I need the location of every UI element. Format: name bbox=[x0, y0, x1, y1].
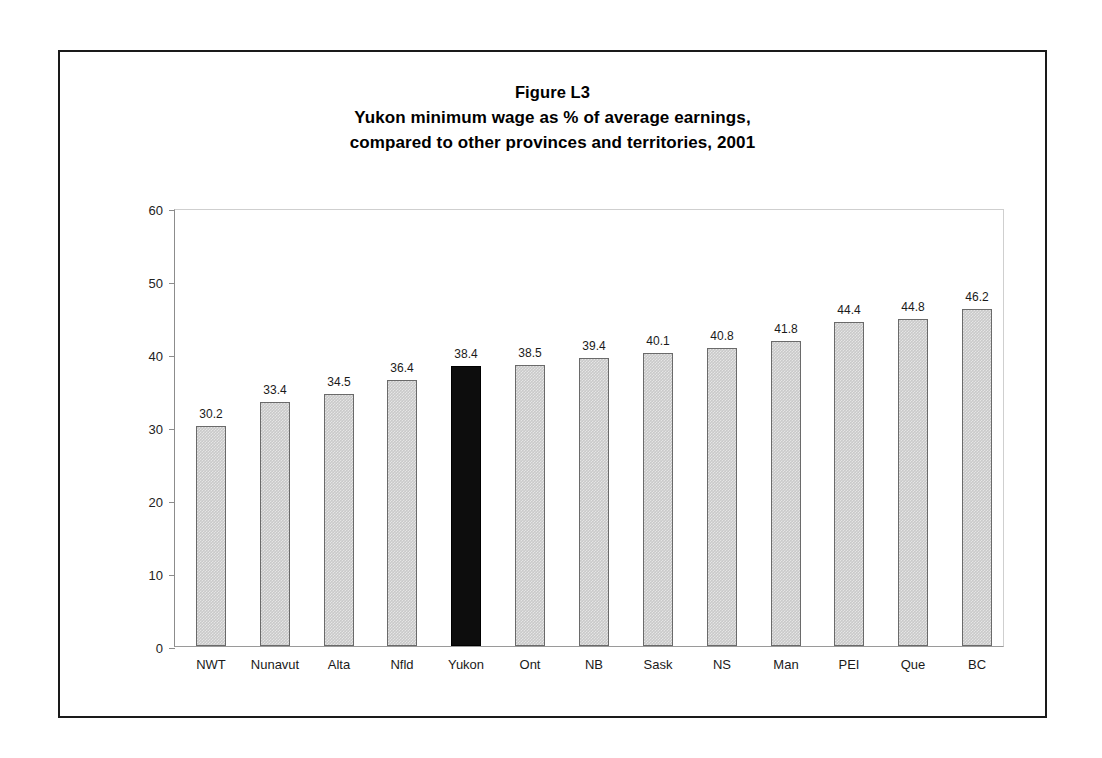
x-axis-category-label: Man bbox=[773, 658, 798, 671]
bar-sask[interactable] bbox=[643, 353, 673, 646]
x-axis-category-label: Alta bbox=[328, 658, 350, 671]
bar-value-label: 46.2 bbox=[965, 291, 988, 303]
bar-yukon[interactable] bbox=[451, 366, 481, 646]
bar-nb[interactable] bbox=[579, 358, 609, 646]
y-axis-tick-label: 10 bbox=[149, 569, 169, 582]
bar-group: 39.4NB bbox=[579, 208, 609, 646]
bar-value-label: 34.5 bbox=[327, 376, 350, 388]
chart-title-line-3: compared to other provinces and territor… bbox=[60, 130, 1045, 155]
y-axis-tick-label: 60 bbox=[149, 204, 169, 217]
x-axis-category-label: Sask bbox=[644, 658, 673, 671]
bar-man[interactable] bbox=[771, 341, 801, 646]
bar-group: 30.2NWT bbox=[196, 208, 226, 646]
bar-group: 38.4Yukon bbox=[451, 208, 481, 646]
bar-group: 44.8Que bbox=[898, 208, 928, 646]
bar-value-label: 40.1 bbox=[646, 335, 669, 347]
chart-title-line-1: Figure L3 bbox=[60, 80, 1045, 105]
bar-ns[interactable] bbox=[707, 348, 737, 646]
bar-group: 34.5Alta bbox=[324, 208, 354, 646]
bar-value-label: 30.2 bbox=[199, 408, 222, 420]
bar-alta[interactable] bbox=[324, 394, 354, 646]
x-axis-category-label: Que bbox=[901, 658, 926, 671]
y-axis-tick-label: 0 bbox=[156, 642, 169, 655]
y-axis-tick-label: 20 bbox=[149, 496, 169, 509]
bar-nfld[interactable] bbox=[387, 380, 417, 646]
bar-value-label: 36.4 bbox=[390, 362, 413, 374]
x-axis-category-label: NB bbox=[585, 658, 603, 671]
x-axis-category-label: Ont bbox=[520, 658, 541, 671]
bar-value-label: 38.4 bbox=[454, 348, 477, 360]
x-axis-category-label: PEI bbox=[839, 658, 860, 671]
y-axis-tick-label: 30 bbox=[149, 423, 169, 436]
bar-group: 33.4Nunavut bbox=[260, 208, 290, 646]
bar-value-label: 44.8 bbox=[901, 301, 924, 313]
bar-value-label: 39.4 bbox=[582, 340, 605, 352]
chart-title: Figure L3 Yukon minimum wage as % of ave… bbox=[60, 80, 1045, 155]
bar-value-label: 41.8 bbox=[774, 323, 797, 335]
bar-pei[interactable] bbox=[834, 322, 864, 646]
x-axis-category-label: Yukon bbox=[448, 658, 484, 671]
x-axis-category-label: Nfld bbox=[390, 658, 413, 671]
bar-value-label: 44.4 bbox=[837, 304, 860, 316]
bar-ont[interactable] bbox=[515, 365, 545, 646]
bar-bc[interactable] bbox=[962, 309, 992, 646]
bar-nwt[interactable] bbox=[196, 426, 226, 646]
bar-nunavut[interactable] bbox=[260, 402, 290, 646]
figure-frame: Figure L3 Yukon minimum wage as % of ave… bbox=[58, 50, 1047, 718]
x-axis-category-label: NS bbox=[713, 658, 731, 671]
y-axis-tick-label: 40 bbox=[149, 350, 169, 363]
bar-group: 40.8NS bbox=[707, 208, 737, 646]
bar-value-label: 38.5 bbox=[518, 347, 541, 359]
x-axis-category-label: BC bbox=[968, 658, 986, 671]
bar-group: 41.8Man bbox=[771, 208, 801, 646]
x-axis-category-label: Nunavut bbox=[251, 658, 299, 671]
y-axis-tick-mark bbox=[169, 648, 175, 649]
plot-area: 6050403020100 30.2NWT33.4Nunavut34.5Alta… bbox=[174, 209, 1004, 647]
bar-group: 38.5Ont bbox=[515, 208, 545, 646]
bar-group: 44.4PEI bbox=[834, 208, 864, 646]
bar-value-label: 33.4 bbox=[263, 384, 286, 396]
bar-que[interactable] bbox=[898, 319, 928, 646]
x-axis-category-label: NWT bbox=[196, 658, 226, 671]
bar-group: 40.1Sask bbox=[643, 208, 673, 646]
bars-layer: 30.2NWT33.4Nunavut34.5Alta36.4Nfld38.4Yu… bbox=[175, 210, 1003, 646]
y-axis-tick-label: 50 bbox=[149, 277, 169, 290]
bar-group: 46.2BC bbox=[962, 208, 992, 646]
bar-value-label: 40.8 bbox=[710, 330, 733, 342]
bar-group: 36.4Nfld bbox=[387, 208, 417, 646]
chart-title-line-2: Yukon minimum wage as % of average earni… bbox=[60, 105, 1045, 130]
